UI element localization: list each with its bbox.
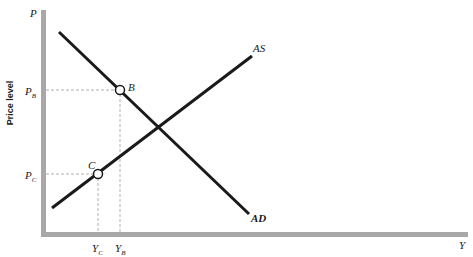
ad-label: AD [251,213,266,224]
x-axis-letter: Y [459,240,465,251]
point-b-label: B [128,82,135,93]
as-curve [52,56,252,208]
point-b [116,86,125,95]
price-c-label: PC [25,170,36,184]
x-axis [41,232,468,237]
output-b-label: YB [115,243,125,257]
ad-curve [59,32,249,214]
ad-as-diagram [0,0,473,257]
output-c-label: YC [92,243,103,257]
as-label: AS [253,43,265,54]
price-b-label: PB [25,86,36,100]
y-axis [41,10,46,237]
y-axis-title: Price level [5,81,15,126]
y-axis-letter: P [30,8,37,19]
point-c-label: C [88,160,95,171]
